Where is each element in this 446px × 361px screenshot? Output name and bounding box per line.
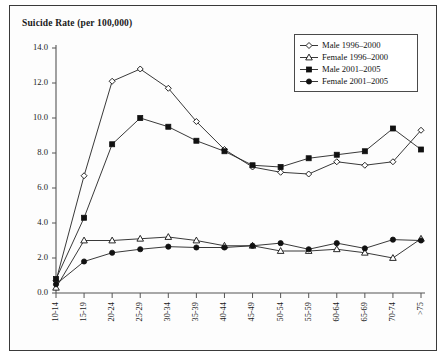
data-point-marker bbox=[82, 215, 87, 220]
data-point-marker bbox=[222, 149, 227, 154]
x-tick-label: 70-74 bbox=[388, 301, 397, 321]
data-point-marker bbox=[81, 173, 87, 179]
x-tick-label: 25-29 bbox=[135, 302, 144, 322]
data-point-marker bbox=[362, 162, 368, 168]
data-point-marker bbox=[390, 126, 395, 131]
data-point-marker bbox=[334, 159, 340, 165]
data-point-marker bbox=[419, 147, 424, 152]
y-tick-label: 6.0 bbox=[37, 182, 48, 192]
data-point-marker bbox=[390, 237, 395, 242]
data-point-marker bbox=[166, 244, 171, 249]
y-tick-label: 8.0 bbox=[37, 147, 48, 157]
data-point-marker bbox=[250, 163, 255, 168]
data-point-marker bbox=[138, 116, 143, 121]
data-point-marker bbox=[306, 156, 311, 161]
legend-marker-filled-circle-icon bbox=[299, 76, 319, 87]
y-tick-label: 2.0 bbox=[37, 252, 48, 262]
data-point-marker bbox=[278, 241, 283, 246]
data-point-marker bbox=[362, 246, 367, 251]
data-point-marker bbox=[110, 250, 115, 255]
y-tick-label: 10.0 bbox=[33, 112, 48, 122]
data-point-marker bbox=[278, 165, 283, 170]
x-tick-label: 10-14 bbox=[51, 301, 60, 321]
data-point-marker bbox=[81, 237, 88, 243]
data-point-marker bbox=[334, 241, 339, 246]
x-tick-label: 55-59 bbox=[304, 302, 313, 322]
legend-item-2[interactable]: Male 2001–2005 bbox=[299, 63, 412, 75]
x-tick-label: 40-44 bbox=[219, 301, 228, 321]
x-tick-label: 45-49 bbox=[247, 302, 256, 322]
data-point-marker bbox=[418, 238, 423, 243]
data-point-marker bbox=[306, 78, 311, 83]
data-point-marker bbox=[166, 124, 171, 129]
data-point-marker bbox=[333, 246, 340, 252]
data-point-marker bbox=[81, 259, 86, 264]
y-tick-label: 0.0 bbox=[37, 287, 48, 297]
data-point-marker bbox=[165, 234, 172, 240]
legend-item-label: Male 2001–2005 bbox=[322, 64, 380, 75]
x-tick-label: 20-24 bbox=[107, 301, 116, 321]
data-point-marker bbox=[362, 149, 367, 154]
y-axis: 0.02.04.06.08.010.012.014.0 bbox=[33, 42, 56, 297]
legend-item-label: Female 1996–2000 bbox=[322, 52, 388, 63]
series-line bbox=[56, 237, 421, 288]
legend-item-1[interactable]: Female 1996–2000 bbox=[299, 51, 412, 63]
x-tick-label: 50-54 bbox=[276, 301, 285, 321]
data-point-marker bbox=[222, 245, 227, 250]
data-point-marker bbox=[110, 142, 115, 147]
y-tick-label: 4.0 bbox=[37, 217, 48, 227]
x-tick-label: 60-64 bbox=[332, 301, 341, 321]
data-point-marker bbox=[250, 243, 255, 248]
series-male-2001-2005 bbox=[54, 116, 424, 282]
legend-item-label: Female 2001–2005 bbox=[322, 76, 388, 87]
data-point-marker bbox=[307, 67, 312, 72]
legend-item-0[interactable]: Male 1996–2000 bbox=[299, 39, 412, 51]
x-tick-label: 65-69 bbox=[360, 302, 369, 322]
figure-container: Suicide Rate (per 100,000) 0.02.04.06.08… bbox=[0, 0, 446, 361]
data-series-group bbox=[53, 66, 425, 290]
legend: Male 1996–2000Female 1996–2000Male 2001–… bbox=[294, 34, 418, 92]
y-tick-label: 14.0 bbox=[33, 42, 48, 52]
series-male-1996-2000 bbox=[53, 66, 424, 284]
data-point-marker bbox=[53, 282, 58, 287]
data-point-marker bbox=[194, 138, 199, 143]
x-tick-label: 35-39 bbox=[191, 302, 200, 322]
data-point-marker bbox=[306, 247, 311, 252]
data-point-marker bbox=[109, 78, 115, 84]
series-female-1996-2000 bbox=[53, 234, 425, 291]
data-point-marker bbox=[54, 277, 59, 282]
data-point-marker bbox=[306, 171, 312, 177]
data-point-marker bbox=[306, 54, 313, 60]
data-point-marker bbox=[334, 152, 339, 157]
data-point-marker bbox=[138, 247, 143, 252]
legend-item-label: Male 1996–2000 bbox=[322, 40, 380, 51]
x-tick-label: 30-34 bbox=[163, 301, 172, 321]
data-point-marker bbox=[306, 42, 312, 48]
x-tick-label: 15-19 bbox=[79, 302, 88, 322]
legend-marker-open-diamond-icon bbox=[299, 40, 319, 51]
data-point-marker bbox=[194, 245, 199, 250]
legend-marker-open-triangle-icon bbox=[299, 52, 319, 63]
data-point-marker bbox=[137, 66, 143, 72]
x-tick-label: >75 bbox=[416, 302, 425, 315]
series-female-2001-2005 bbox=[53, 237, 423, 287]
x-axis: 10-1415-1920-2425-2930-3435-3940-4445-49… bbox=[51, 293, 425, 322]
y-tick-label: 12.0 bbox=[33, 77, 48, 87]
legend-marker-filled-square-icon bbox=[299, 64, 319, 75]
data-point-marker bbox=[278, 169, 284, 175]
legend-item-3[interactable]: Female 2001–2005 bbox=[299, 75, 412, 87]
